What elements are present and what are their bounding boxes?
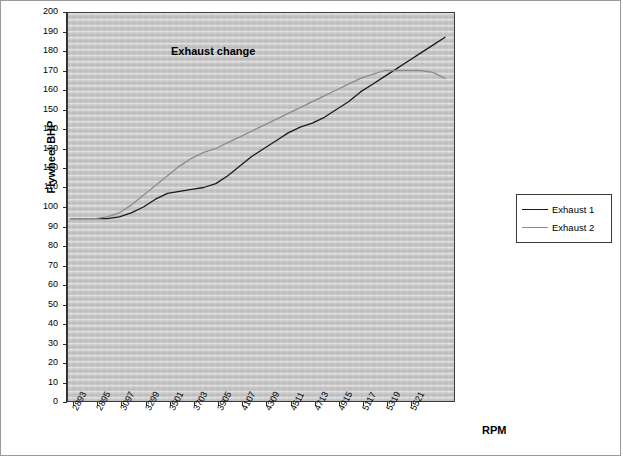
y-tick-mark xyxy=(63,305,67,306)
y-tick-mark xyxy=(63,51,67,52)
y-tick-mark xyxy=(63,90,67,91)
y-tick-mark xyxy=(63,110,67,111)
y-tick-mark xyxy=(63,207,67,208)
legend-label: Exhaust 2 xyxy=(552,221,594,235)
y-tick-mark xyxy=(63,227,67,228)
y-tick-label: 40 xyxy=(36,319,58,328)
y-tick-mark xyxy=(63,402,67,403)
legend-swatch xyxy=(522,227,548,228)
y-tick-label: 80 xyxy=(36,241,58,250)
y-tick-mark xyxy=(63,32,67,33)
y-tick-label: 200 xyxy=(36,7,58,16)
y-tick-mark xyxy=(63,187,67,188)
y-tick-label: 60 xyxy=(36,280,58,289)
y-tick-mark xyxy=(63,285,67,286)
chart-frame: Exhaust change 0102030405060708090100110… xyxy=(0,0,621,456)
x-axis-title: RPM xyxy=(482,424,506,436)
y-tick-label: 190 xyxy=(36,27,58,36)
y-tick-mark xyxy=(63,12,67,13)
y-tick-mark xyxy=(63,168,67,169)
y-tick-mark xyxy=(63,149,67,150)
y-tick-label: 30 xyxy=(36,339,58,348)
chart-annotation: Exhaust change xyxy=(171,45,255,57)
y-tick-mark xyxy=(63,383,67,384)
y-tick-mark xyxy=(63,266,67,267)
legend-item[interactable]: Exhaust 1 xyxy=(522,203,610,217)
y-tick-label: 50 xyxy=(36,300,58,309)
y-tick-label: 170 xyxy=(36,66,58,75)
y-tick-mark xyxy=(63,71,67,72)
plot-wrapper: Exhaust change xyxy=(67,12,455,402)
y-axis-title: Flywheel BHP xyxy=(45,77,57,237)
legend: Exhaust 1Exhaust 2 xyxy=(516,194,612,243)
y-tick-mark xyxy=(63,363,67,364)
y-tick-label: 20 xyxy=(36,358,58,367)
y-tick-mark xyxy=(63,129,67,130)
chart-series-svg xyxy=(67,12,455,402)
legend-item[interactable]: Exhaust 2 xyxy=(522,221,610,235)
y-tick-mark xyxy=(63,324,67,325)
y-tick-label: 0 xyxy=(36,397,58,406)
y-tick-label: 180 xyxy=(36,46,58,55)
legend-swatch xyxy=(522,209,548,210)
series-line-2 xyxy=(71,71,445,219)
legend-label: Exhaust 1 xyxy=(552,203,594,217)
y-tick-label: 10 xyxy=(36,378,58,387)
y-tick-mark xyxy=(63,246,67,247)
y-tick-mark xyxy=(63,344,67,345)
y-tick-label: 70 xyxy=(36,261,58,270)
